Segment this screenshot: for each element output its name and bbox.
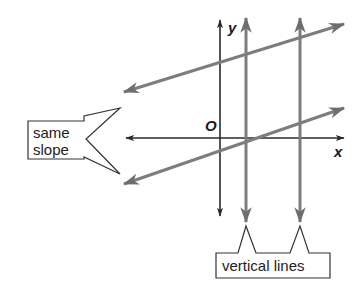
coordinate-diagram: O y x same slope vertical lines bbox=[0, 0, 362, 296]
x-axis-label: x bbox=[333, 143, 343, 160]
y-axis-label: y bbox=[227, 19, 237, 36]
same-slope-text-line1: same bbox=[33, 124, 70, 141]
origin-label: O bbox=[205, 117, 217, 134]
same-slope-text-line2: slope bbox=[33, 141, 69, 158]
vertical-lines-text: vertical lines bbox=[222, 257, 305, 274]
lower-parallel-line bbox=[124, 108, 344, 184]
